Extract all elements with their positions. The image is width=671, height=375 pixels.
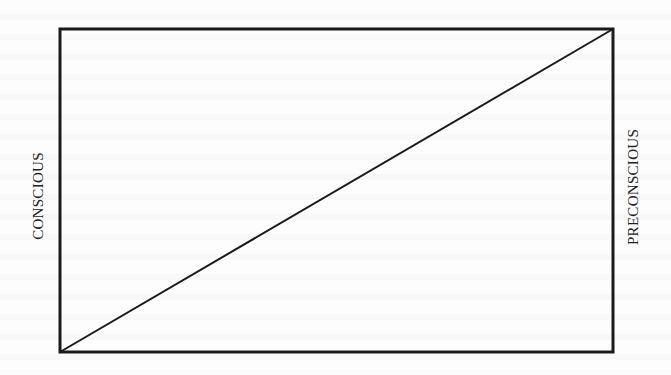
diagram-page: CONSCIOUS PRECONSCIOUS: [0, 0, 671, 375]
diagram-canvas: [0, 0, 671, 375]
label-conscious: CONSCIOUS: [30, 152, 47, 240]
diagonal-line: [60, 29, 613, 352]
label-preconscious: PRECONSCIOUS: [625, 129, 642, 245]
